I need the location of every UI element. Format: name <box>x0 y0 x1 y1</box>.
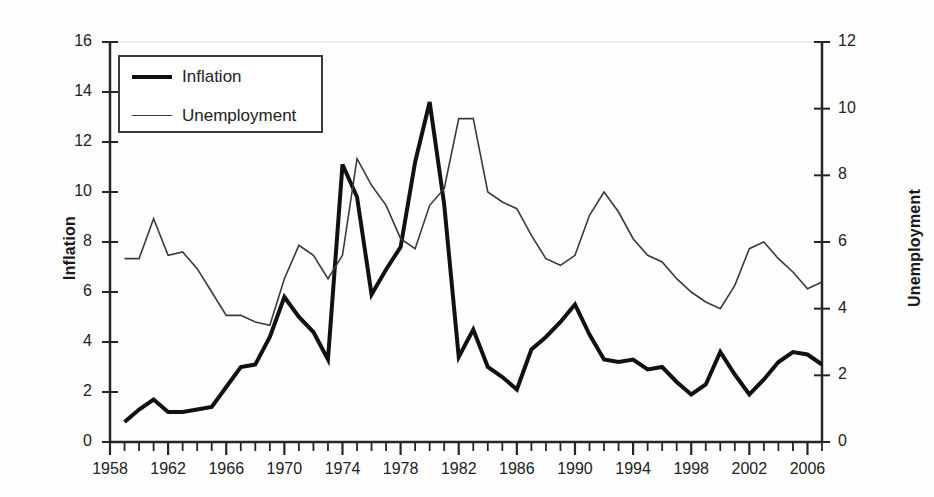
y-axis-right-title: Unemployment <box>906 133 924 363</box>
x-axis-tick-label: 1966 <box>196 460 256 478</box>
y-axis-right-tick-label: 12 <box>838 32 878 50</box>
y-axis-right-tick-label: 0 <box>838 432 878 450</box>
legend-line-icon-inflation <box>132 75 172 79</box>
legend-line-icon-unemployment <box>132 115 172 116</box>
series-line-unemployment <box>125 119 822 326</box>
y-axis-left-tick-label: 6 <box>52 282 92 300</box>
chart-canvas: Inflation Unemployment Inflation Unemplo… <box>0 0 934 497</box>
y-axis-left-tick-label: 0 <box>52 432 92 450</box>
legend-label-unemployment: Unemployment <box>182 106 296 126</box>
x-axis-tick-label: 1986 <box>487 460 547 478</box>
chart-legend: Inflation Unemployment <box>118 55 323 133</box>
x-axis-tick-label: 1978 <box>371 460 431 478</box>
y-axis-left-tick-label: 8 <box>52 232 92 250</box>
x-axis-tick-label: 1958 <box>80 460 140 478</box>
y-axis-right-tick-label: 4 <box>838 299 878 317</box>
y-axis-left-tick-label: 14 <box>52 82 92 100</box>
x-axis-tick-label: 1994 <box>603 460 663 478</box>
y-axis-right-tick-label: 6 <box>838 232 878 250</box>
y-axis-right-tick-label: 2 <box>838 365 878 383</box>
legend-item-inflation: Inflation <box>120 57 321 96</box>
x-axis-tick-label: 1998 <box>661 460 721 478</box>
x-axis-tick-label: 1962 <box>138 460 198 478</box>
series-line-inflation <box>125 102 822 422</box>
y-axis-left-tick-label: 2 <box>52 382 92 400</box>
x-axis-tick-label: 1970 <box>254 460 314 478</box>
y-axis-left-tick-label: 16 <box>52 32 92 50</box>
y-axis-left-tick-label: 10 <box>52 182 92 200</box>
y-axis-left-tick-label: 12 <box>52 132 92 150</box>
x-axis-tick-label: 1982 <box>429 460 489 478</box>
legend-item-unemployment: Unemployment <box>120 96 321 135</box>
x-axis-tick-label: 1974 <box>312 460 372 478</box>
x-axis-tick-label: 2006 <box>777 460 837 478</box>
y-axis-left-tick-label: 4 <box>52 332 92 350</box>
legend-label-inflation: Inflation <box>182 67 242 87</box>
y-axis-right-tick-label: 8 <box>838 165 878 183</box>
x-axis-tick-label: 1990 <box>545 460 605 478</box>
y-axis-right-tick-label: 10 <box>838 99 878 117</box>
x-axis-tick-label: 2002 <box>719 460 779 478</box>
